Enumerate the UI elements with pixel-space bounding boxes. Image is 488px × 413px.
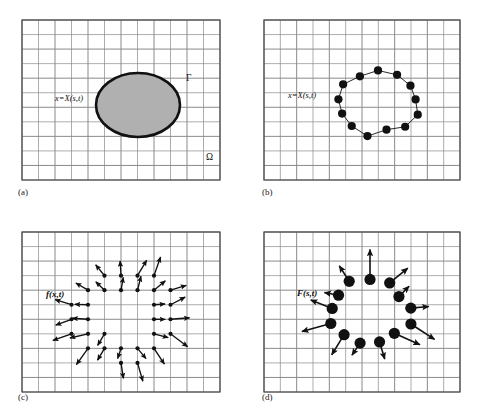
boundary-marker <box>339 80 347 88</box>
panel-caption-b: (b) <box>262 187 273 197</box>
boundary-marker <box>356 72 364 80</box>
boundary-marker <box>348 122 356 130</box>
immersed-boundary-figure: x=X(s,t)ΓΩ(a) x=X(s,t)(b) f(x,t)(c) F(s,… <box>0 0 488 413</box>
panel-caption-a: (a) <box>18 187 28 197</box>
lagrangian-force-label: F(s,t) <box>296 288 317 298</box>
position-label: x=X(s,t) <box>54 93 83 103</box>
boundary-marker <box>414 111 422 119</box>
boundary-marker <box>334 95 342 103</box>
boundary-marker <box>393 71 401 79</box>
boundary-marker <box>406 82 414 90</box>
eulerian-force-arrow <box>120 261 121 276</box>
boundary-marker <box>338 109 346 117</box>
position-label: x=X(s,t) <box>287 90 316 100</box>
boundary-marker <box>411 95 419 103</box>
figure-background <box>0 0 488 413</box>
boundary-marker <box>374 66 382 74</box>
panel-caption-c: (c) <box>18 392 28 402</box>
panel-caption-d: (d) <box>262 392 273 402</box>
eulerian-force-label: f(x,t) <box>46 289 64 299</box>
boundary-marker <box>363 132 371 140</box>
gamma-label: Γ <box>186 73 192 83</box>
eulerian-force-arrow <box>154 304 165 305</box>
boundary-marker <box>401 123 409 131</box>
boundary-marker <box>382 126 390 134</box>
immersed-body-ellipse <box>96 73 180 137</box>
omega-label: Ω <box>206 152 213 162</box>
